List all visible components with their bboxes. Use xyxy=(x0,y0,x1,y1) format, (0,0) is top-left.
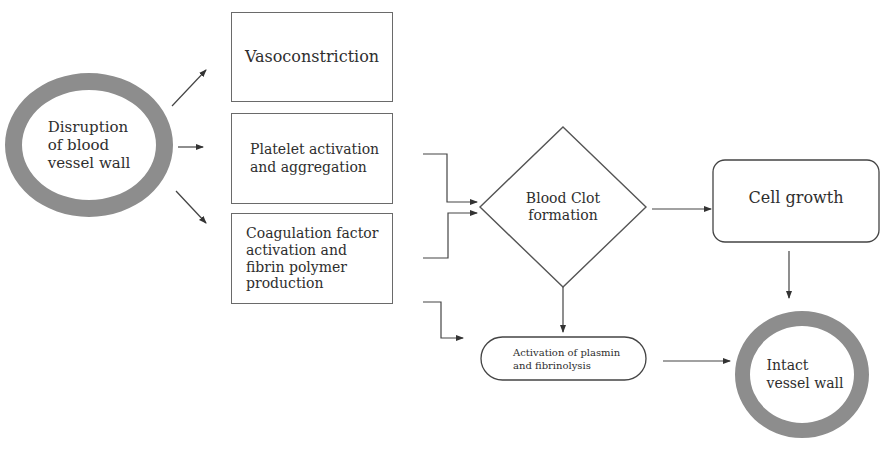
label-line: Activation of plasmin xyxy=(513,347,620,358)
label-line: activation and xyxy=(246,242,347,258)
node-plasmin: Activation of plasmin and fibrinolysis xyxy=(481,337,646,380)
node-disruption-label: Disruption of blood vessel wall xyxy=(48,118,131,173)
label-line: vessel wall xyxy=(766,375,843,391)
arrow-coagulation-to-clot xyxy=(423,213,477,258)
node-platelet: Platelet activation and aggregation xyxy=(231,113,393,204)
node-intact: Intact vessel wall xyxy=(735,311,869,438)
node-clot-label: Blood Clot formation xyxy=(526,190,600,224)
label-line: formation xyxy=(528,207,597,223)
arrow-coagulation-to-plasmin xyxy=(423,302,463,338)
node-plasmin-label: Activation of plasmin and fibrinolysis xyxy=(513,346,620,372)
node-coagulation: Coagulation factor activation and fibrin… xyxy=(231,213,393,304)
node-disruption: Disruption of blood vessel wall xyxy=(5,73,173,217)
node-platelet-label: Platelet activation and aggregation xyxy=(250,141,379,175)
label-line: Intact xyxy=(766,357,808,373)
node-intact-label: Intact vessel wall xyxy=(766,357,843,391)
node-vasoconstriction: Vasoconstriction xyxy=(231,12,393,102)
label-line: vessel wall xyxy=(48,154,131,172)
label-line: and aggregation xyxy=(250,159,367,175)
arrow-disruption-to-coagulation xyxy=(176,191,206,223)
arrow-disruption-to-vasoconstriction xyxy=(172,70,206,106)
label-line: Disruption xyxy=(48,118,128,136)
label-line: production xyxy=(246,275,323,291)
node-coagulation-label: Coagulation factor activation and fibrin… xyxy=(246,225,378,292)
label-line: fibrin polymer xyxy=(246,259,347,275)
label-line: and fibrinolysis xyxy=(513,360,591,371)
node-cell-growth-label: Cell growth xyxy=(749,188,844,208)
arrow-platelet-to-clot xyxy=(423,154,477,202)
label-line: Coagulation factor xyxy=(246,225,378,241)
node-vasoconstriction-label: Vasoconstriction xyxy=(245,47,379,67)
label-line: Blood Clot xyxy=(526,190,600,206)
label-line: Platelet activation xyxy=(250,141,379,157)
label-line: of blood xyxy=(48,136,109,154)
node-clot: Blood Clot formation xyxy=(505,180,621,234)
node-cell-growth: Cell growth xyxy=(713,160,879,242)
